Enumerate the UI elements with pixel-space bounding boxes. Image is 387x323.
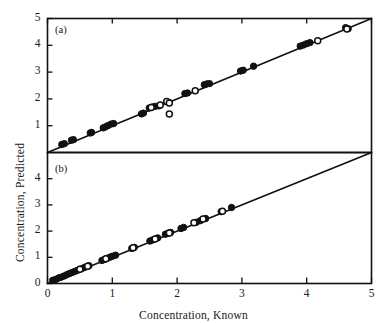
data-point-open (152, 236, 158, 242)
chart-canvas (0, 0, 387, 323)
data-point-open (166, 111, 172, 117)
y-tick-label: 1 (15, 118, 41, 130)
x-axis-title: Concentration, Known (0, 309, 387, 321)
panel-a (48, 19, 372, 153)
data-point-filled (307, 39, 313, 45)
data-point-filled (110, 120, 116, 126)
data-point-open (130, 245, 136, 251)
y-tick-label: 1 (15, 249, 41, 261)
data-point-open (192, 88, 198, 94)
data-point-filled (228, 204, 234, 210)
data-point-filled (180, 224, 186, 230)
x-tick-label: 0 (45, 287, 51, 299)
y-tick-label: 0 (15, 276, 41, 288)
identity-line (48, 153, 372, 284)
data-point-open (166, 100, 172, 106)
x-tick-label: 3 (239, 287, 245, 299)
data-point-open (166, 230, 172, 236)
data-point-open (148, 104, 154, 110)
figure-container: Concentration, Known Concentration, Pred… (0, 0, 387, 323)
x-tick-label: 2 (174, 287, 180, 299)
y-tick-label: 2 (15, 91, 41, 103)
data-point-open (191, 220, 197, 226)
data-point-filled (250, 63, 256, 69)
panel-a-label: (a) (55, 24, 67, 35)
data-point-filled (61, 140, 67, 146)
data-point-filled (240, 67, 246, 73)
y-tick-label: 4 (15, 37, 41, 49)
x-tick-label: 1 (109, 287, 115, 299)
data-point-filled (206, 80, 212, 86)
y-tick-label: 4 (15, 171, 41, 183)
data-point-filled (184, 90, 190, 96)
data-point-open (344, 26, 350, 32)
data-point-open (200, 216, 206, 222)
panel-b (48, 153, 372, 284)
y-tick-label: 5 (15, 11, 41, 23)
data-point-open (157, 102, 163, 108)
data-point-open (85, 263, 91, 269)
y-tick-label: 3 (15, 64, 41, 76)
y-tick-label: 2 (15, 223, 41, 235)
x-tick-label: 4 (304, 287, 310, 299)
data-point-open (219, 208, 225, 214)
data-point-open (103, 256, 109, 262)
y-tick-label: 3 (15, 197, 41, 209)
data-point-filled (88, 129, 94, 135)
data-point-filled (70, 136, 76, 142)
data-point-open (315, 38, 321, 44)
data-point-filled (140, 110, 146, 116)
data-point-open (77, 266, 83, 272)
x-tick-label: 5 (369, 287, 375, 299)
data-point-filled (112, 252, 118, 258)
panel-b-label: (b) (55, 163, 67, 174)
